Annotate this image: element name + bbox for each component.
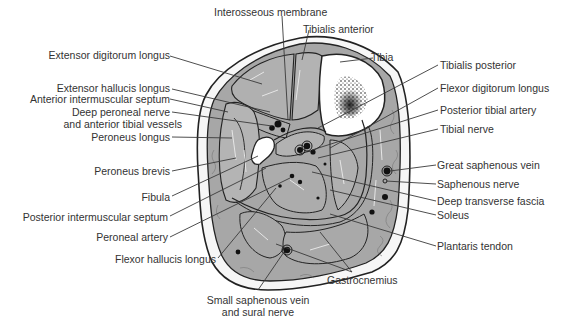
- label-tibialis-posterior: Tibialis posterior: [440, 59, 516, 71]
- label-sural-nerve: and sural nerve: [188, 306, 328, 318]
- label-flexor-digitorum-longus: Flexor digitorum longus: [440, 82, 549, 94]
- label-extensor-digitorum-longus: Extensor digitorum longus: [49, 49, 170, 61]
- label-flexor-hallucis-longus: Flexor hallucis longus: [115, 253, 216, 265]
- label-soleus: Soleus: [437, 209, 469, 221]
- label-peroneus-longus: Peroneus longus: [91, 131, 170, 143]
- tibialis-anterior-muscle: [292, 53, 322, 120]
- label-anterior-tibial-vessels: and anterior tibial vessels: [64, 118, 182, 130]
- label-tibial-nerve: Tibial nerve: [440, 123, 494, 135]
- label-saphenous-nerve: Saphenous nerve: [437, 178, 519, 190]
- label-fibula: Fibula: [141, 191, 170, 203]
- label-peroneal-artery: Peroneal artery: [96, 231, 168, 243]
- label-peroneus-brevis: Peroneus brevis: [94, 165, 170, 177]
- label-gastrocnemius: Gastrocnemius: [327, 274, 398, 286]
- leg-cross-section-diagram: Interosseous membrane Tibialis anterior …: [0, 0, 564, 321]
- label-tibialis-anterior: Tibialis anterior: [303, 23, 374, 35]
- label-great-saphenous-vein: Great saphenous vein: [437, 159, 540, 171]
- label-tibia: Tibia: [371, 51, 393, 63]
- label-deep-peroneal-nerve: Deep peroneal nerve: [72, 106, 170, 118]
- label-small-saphenous-vein: Small saphenous vein: [188, 294, 328, 306]
- label-plantaris-tendon: Plantaris tendon: [437, 240, 513, 252]
- label-deep-transverse-fascia: Deep transverse fascia: [437, 195, 544, 207]
- label-interosseous-membrane: Interosseous membrane: [214, 6, 327, 18]
- label-posterior-intermuscular-septum: Posterior intermuscular septum: [23, 211, 168, 223]
- label-anterior-intermuscular-septum: Anterior intermuscular septum: [30, 93, 170, 105]
- label-posterior-tibial-artery: Posterior tibial artery: [440, 104, 536, 116]
